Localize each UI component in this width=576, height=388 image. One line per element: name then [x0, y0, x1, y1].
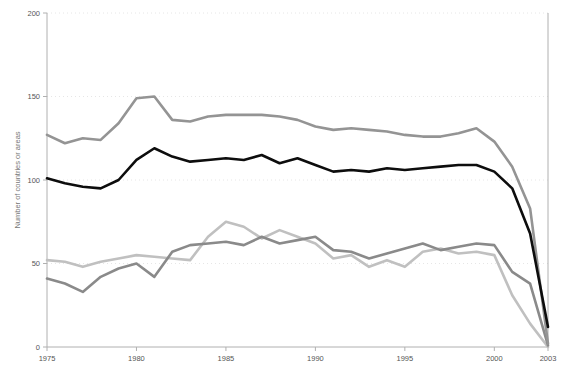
series-line-series-upper-gray: [47, 97, 548, 344]
y-tick-label-100: 100: [27, 176, 40, 185]
x-tick-label-1995: 1995: [397, 354, 414, 363]
x-tick-label-1975: 1975: [39, 354, 56, 363]
y-tick-label-50: 50: [32, 259, 40, 268]
y-tick-label-0: 0: [36, 343, 40, 352]
y-axis-title: Number of countries or areas: [13, 131, 22, 228]
x-tick-label-1985: 1985: [218, 354, 235, 363]
x-tick-label-2003: 2003: [540, 354, 557, 363]
y-tick-label-200: 200: [27, 9, 40, 18]
x-tick-label-1980: 1980: [128, 354, 145, 363]
x-tick-label-1990: 1990: [307, 354, 324, 363]
chart-container: 0501001502001975198019851990199520002003…: [0, 0, 576, 388]
line-chart: 0501001502001975198019851990199520002003…: [0, 0, 576, 388]
x-tick-label-2000: 2000: [486, 354, 503, 363]
y-tick-label-150: 150: [27, 92, 40, 101]
